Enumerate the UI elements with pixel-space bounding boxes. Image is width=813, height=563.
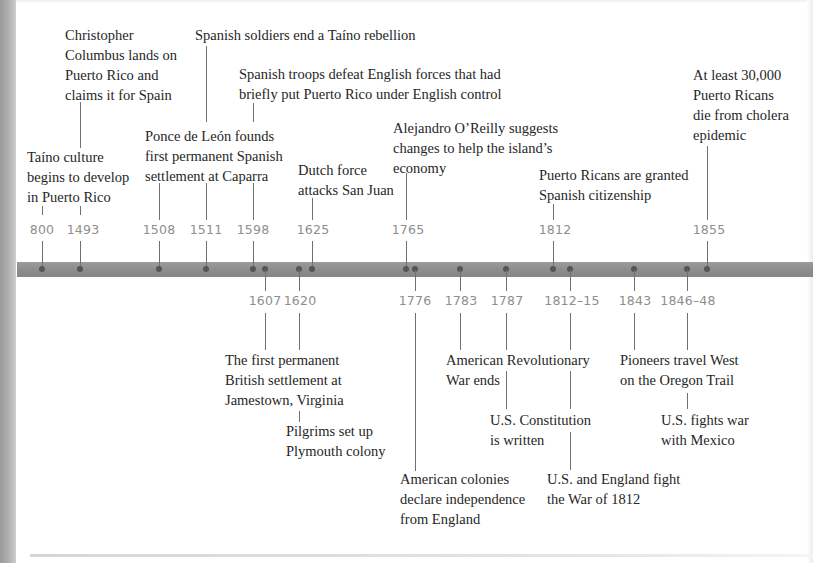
event-year: 1812 — [539, 222, 572, 237]
connector-line — [159, 241, 160, 268]
connector-line — [634, 270, 635, 291]
event-label: U.S. Constitution is written — [490, 410, 591, 450]
event-year: 800 — [30, 222, 54, 237]
connector-line — [634, 313, 635, 350]
connector-line — [553, 241, 554, 268]
connector-line — [265, 270, 266, 291]
event-marker-dot — [156, 266, 162, 272]
connector-line — [460, 270, 461, 291]
connector-line — [553, 204, 554, 220]
connector-line — [506, 270, 507, 291]
page-edge-shadow — [807, 0, 813, 563]
connector-line — [299, 270, 300, 291]
connector-line — [159, 183, 160, 220]
event-marker-dot — [39, 266, 45, 272]
event-year: 1787 — [491, 293, 524, 308]
connector-line — [570, 371, 571, 409]
event-label: U.S. and England fight the War of 1812 — [547, 469, 680, 509]
connector-line — [312, 241, 313, 268]
connector-line — [506, 313, 507, 350]
connector-line — [42, 206, 43, 215]
event-label: Alejandro O’Reilly suggests changes to h… — [393, 118, 558, 178]
connector-line — [80, 241, 81, 268]
connector-line — [570, 270, 571, 291]
event-year: 1783 — [445, 293, 478, 308]
event-year: 1607 — [249, 293, 282, 308]
event-marker-dot — [203, 266, 209, 272]
connector-line — [265, 313, 266, 350]
event-label: American Revolutionary War ends — [446, 350, 590, 390]
event-label: Pioneers travel West on the Oregon Trail — [620, 350, 739, 390]
event-year: 1812–15 — [544, 293, 599, 308]
connector-line — [206, 183, 207, 220]
page-edge-strip — [0, 0, 16, 563]
event-year: 1511 — [190, 222, 223, 237]
connector-line — [415, 313, 416, 471]
event-label: Taíno culture begins to develop in Puert… — [27, 147, 129, 207]
event-label: Ponce de León founds first permanent Spa… — [145, 126, 283, 186]
connector-line — [42, 241, 43, 268]
connector-line — [506, 371, 507, 409]
connector-line — [415, 270, 416, 291]
connector-line — [707, 146, 708, 220]
event-label: Christopher Columbus lands on Puerto Ric… — [65, 25, 177, 105]
event-label: American colonies declare independence f… — [400, 469, 525, 529]
connector-line — [406, 173, 407, 220]
connector-line — [253, 183, 254, 220]
event-label: At least 30,000 Puerto Ricans die from c… — [693, 65, 789, 145]
connector-line — [707, 241, 708, 268]
event-label: Dutch force attacks San Juan — [298, 160, 394, 200]
event-year: 1843 — [619, 293, 652, 308]
connector-line — [206, 46, 207, 122]
event-marker-dot — [403, 266, 409, 272]
event-year: 1765 — [392, 222, 425, 237]
event-label: Spanish soldiers end a Taíno rebellion — [195, 25, 416, 45]
connector-line — [570, 313, 571, 350]
connector-line — [406, 241, 407, 268]
connector-line — [80, 206, 81, 215]
connector-line — [687, 270, 688, 291]
event-marker-dot — [309, 266, 315, 272]
event-label: Puerto Ricans are granted Spanish citize… — [539, 165, 688, 205]
event-year: 1620 — [284, 293, 317, 308]
connector-line — [460, 313, 461, 350]
connector-line — [206, 241, 207, 268]
event-marker-dot — [77, 266, 83, 272]
event-year: 1508 — [143, 222, 176, 237]
event-year: 1625 — [297, 222, 330, 237]
event-label: Pilgrims set up Plymouth colony — [286, 421, 386, 461]
connector-line — [253, 103, 254, 122]
connector-line — [687, 313, 688, 350]
event-year: 1855 — [693, 222, 726, 237]
bottom-rule — [30, 554, 813, 557]
event-year: 1493 — [67, 222, 100, 237]
event-marker-dot — [704, 266, 710, 272]
connector-line — [80, 102, 81, 148]
event-label: The first permanent British settlement a… — [225, 350, 344, 410]
top-rule — [16, 0, 813, 2]
event-year: 1846–48 — [660, 293, 715, 308]
connector-line — [299, 313, 300, 350]
event-year: 1776 — [399, 293, 432, 308]
connector-line — [570, 432, 571, 470]
event-marker-dot — [550, 266, 556, 272]
event-marker-dot — [250, 266, 256, 272]
event-year: 1598 — [237, 222, 270, 237]
connector-line — [312, 198, 313, 220]
connector-line — [253, 241, 254, 268]
event-label: U.S. fights war with Mexico — [661, 410, 749, 450]
event-label: Spanish troops defeat English forces tha… — [239, 64, 502, 104]
connector-line — [687, 393, 688, 409]
